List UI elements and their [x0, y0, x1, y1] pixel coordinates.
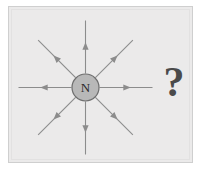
pole-label-n: N — [72, 74, 99, 101]
field-line-arrowhead-icon — [123, 84, 131, 90]
field-line-arrowhead-icon — [40, 84, 48, 90]
field-line-arrowhead-icon — [82, 42, 88, 50]
field-line-arrowhead-icon — [82, 125, 88, 133]
figure-root: N ? — [0, 0, 202, 173]
question-mark-annotation: ? — [160, 60, 188, 104]
